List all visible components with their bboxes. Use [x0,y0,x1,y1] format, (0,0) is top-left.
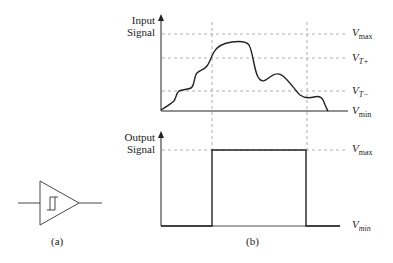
output-vmax-label: Vmax [352,142,373,157]
output-waveform [161,150,340,226]
input-axis-label: Input Signal [100,14,155,38]
input-vmax-label: Vmax [352,26,373,41]
input-label-line2: Signal [100,26,155,38]
diagram-canvas [0,0,393,263]
input-vtplus-label: VT+ [352,51,369,66]
input-vtminus-label: VT− [352,84,369,99]
output-label-line1: Output [100,131,155,143]
output-axis-label: Output Signal [100,131,155,155]
output-label-line2: Signal [100,143,155,155]
output-vmin-label: Vmin [352,218,371,233]
schmitt-trigger-symbol [18,181,102,225]
output-axis-arrow-icon [158,131,164,138]
hysteresis-icon [47,197,58,210]
input-level-lines [162,34,348,91]
input-label-line1: Input [100,14,155,26]
input-waveform [161,41,328,111]
caption-b: (b) [246,235,259,247]
input-vmin-label: Vmin [352,104,371,119]
input-axis-arrow-icon [158,14,164,21]
caption-a: (a) [51,235,63,247]
